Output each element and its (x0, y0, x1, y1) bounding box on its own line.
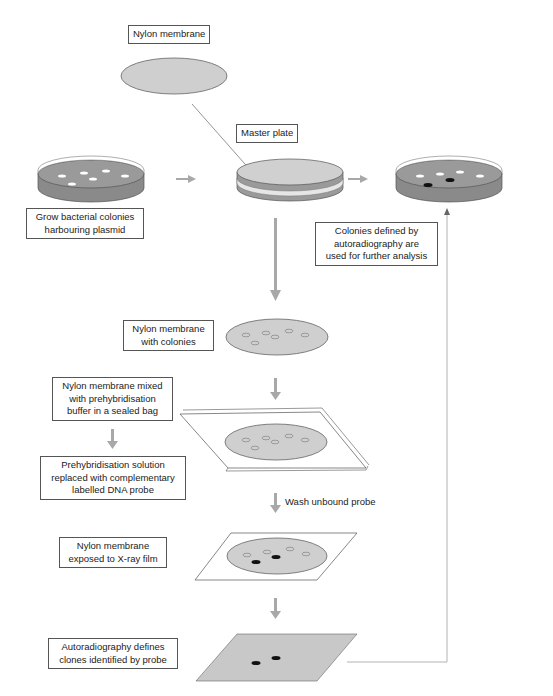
label-master-plate: Master plate (236, 124, 298, 143)
bacterial-plate (38, 156, 144, 202)
label-line: used for further analysis (320, 250, 433, 263)
label-line: buffer in a sealed bag (57, 405, 168, 418)
xray-film-exposure (195, 533, 357, 580)
arrow-down-left (107, 429, 118, 449)
label-membrane-with-colonies: Nylon membrane with colonies (123, 320, 214, 351)
label-line: Nylon membrane (64, 540, 162, 553)
label-exposed-film: Nylon membrane exposed to X-ray film (59, 537, 167, 568)
label-line: Prehybridisation solution (45, 459, 181, 472)
autoradiograph-film (196, 634, 357, 681)
label-line: Colonies defined by (320, 225, 433, 238)
nylon-membrane-disc (121, 58, 227, 94)
result-plate (396, 156, 502, 202)
label-wash: Wash unbound probe (285, 496, 376, 507)
label-line: harbouring plasmid (31, 224, 139, 237)
diagram-canvas (0, 0, 553, 696)
label-line: Grow bacterial colonies (31, 211, 139, 224)
feedback-arrowhead (444, 208, 450, 215)
arrow-right-1 (176, 175, 196, 183)
label-line: exposed to X-ray film (64, 553, 162, 566)
label-line: replaced with complementary (45, 472, 181, 485)
label-line: with prehybridisation (57, 393, 168, 406)
feedback-line (347, 213, 447, 662)
label-line: labelled DNA probe (45, 484, 181, 497)
label-line: Autoradiography defines (53, 641, 173, 654)
label-membrane-mixed: Nylon membrane mixed with prehybridisati… (52, 377, 173, 421)
master-plate (237, 159, 343, 201)
label-line: with colonies (128, 336, 209, 349)
label-line: Nylon membrane (128, 323, 209, 336)
label-line: autoradiography are (320, 238, 433, 251)
sealed-bag (180, 408, 369, 471)
label-prehyb-replaced: Prehybridisation solution replaced with … (40, 456, 186, 500)
arrow-down-4 (270, 598, 281, 619)
label-autoradiography: Autoradiography defines clones identifie… (48, 638, 178, 669)
label-colonies-defined: Colonies defined by autoradiography are … (315, 222, 438, 266)
arrow-right-2 (348, 175, 368, 183)
membrane-with-colonies (226, 319, 328, 355)
arrow-down-2 (270, 378, 281, 400)
arrow-down-long (270, 218, 281, 301)
label-line: clones identified by probe (53, 654, 173, 667)
label-line: Nylon membrane mixed (57, 380, 168, 393)
arrow-down-wash (270, 493, 281, 513)
label-nylon-membrane: Nylon membrane (128, 25, 210, 44)
label-grow-colonies: Grow bacterial colonies harbouring plasm… (26, 208, 144, 239)
